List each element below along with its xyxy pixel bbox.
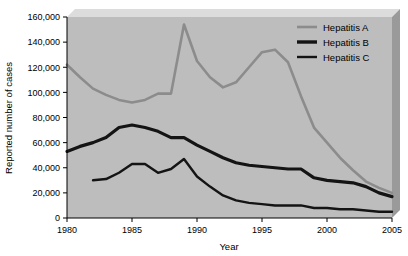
y-tick-label: 40,000: [32, 163, 60, 173]
legend-label-hepatitis-b: Hepatitis B: [323, 37, 369, 48]
y-tick-label: 60,000: [32, 138, 60, 148]
y-axis-title: Reported number of cases: [3, 62, 14, 174]
y-tick-label: 100,000: [27, 88, 60, 98]
legend-label-hepatitis-c: Hepatitis C: [323, 52, 370, 63]
y-tick-label: 140,000: [27, 37, 60, 47]
plot-bevel-top: [67, 9, 400, 17]
x-tick-label: 1990: [187, 225, 207, 235]
x-tick-label: 1995: [252, 225, 272, 235]
hepatitis-cases-line-chart: 020,00040,00060,00080,000100,000120,0001…: [0, 0, 408, 256]
y-tick-label: 120,000: [27, 63, 60, 73]
x-axis-title: Year: [219, 241, 238, 252]
chart-canvas: 020,00040,00060,00080,000100,000120,0001…: [0, 0, 408, 256]
y-tick-label: 160,000: [27, 12, 60, 22]
plot-bevel-side: [392, 9, 400, 218]
x-tick-label: 2005: [382, 225, 402, 235]
chart-legend: Hepatitis AHepatitis BHepatitis C: [297, 22, 370, 63]
x-tick-label: 1980: [57, 225, 77, 235]
x-tick-label: 1985: [122, 225, 142, 235]
x-tick-label: 2000: [317, 225, 337, 235]
legend-label-hepatitis-a: Hepatitis A: [323, 22, 369, 33]
y-tick-label: 0: [55, 213, 60, 223]
y-axis-ticks: 020,00040,00060,00080,000100,000120,0001…: [27, 12, 67, 223]
x-axis-ticks: 198019851990199520002005: [57, 218, 402, 235]
y-tick-label: 80,000: [32, 113, 60, 123]
y-tick-label: 20,000: [32, 188, 60, 198]
